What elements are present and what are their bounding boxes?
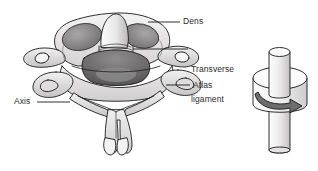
- lower-peg-bottom-ellipse: [269, 147, 290, 153]
- label-atlas: Atlas: [193, 80, 212, 90]
- upper-peg-body: [269, 52, 290, 98]
- spinous-process-right-tip: [117, 138, 128, 155]
- label-axis: Axis: [14, 96, 30, 106]
- vertebra-group: [24, 13, 201, 155]
- label-dens: Dens: [183, 16, 203, 26]
- label-transverse-line2: ligament: [191, 94, 234, 104]
- vertebrae-illustration: [0, 0, 318, 171]
- upper-peg-top-face: [269, 48, 290, 57]
- pivot-joint-model: [253, 48, 307, 154]
- anatomy-figure: Dens Transverse ligament Atlas Axis: [0, 0, 318, 171]
- label-transverse-line1: Transverse: [191, 64, 234, 74]
- spinous-process-left-tip: [104, 138, 116, 155]
